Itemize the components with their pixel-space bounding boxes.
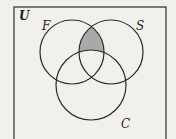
set-c-label: C xyxy=(121,117,130,131)
set-f-label: F xyxy=(41,19,51,33)
venn-diagram-canvas: U F S C xyxy=(0,0,176,139)
venn-diagram: U F S C xyxy=(0,0,176,139)
universe-label: U xyxy=(19,9,31,23)
set-s-label: S xyxy=(136,19,144,33)
